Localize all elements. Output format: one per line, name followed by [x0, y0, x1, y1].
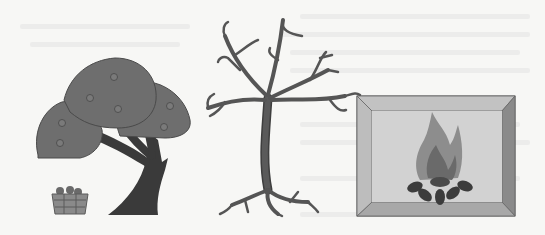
bare-tree — [207, 20, 360, 216]
basket-icon — [52, 186, 88, 214]
fruit-tree — [37, 58, 191, 215]
canopy-center — [64, 58, 156, 128]
illustration-canvas — [0, 0, 545, 235]
